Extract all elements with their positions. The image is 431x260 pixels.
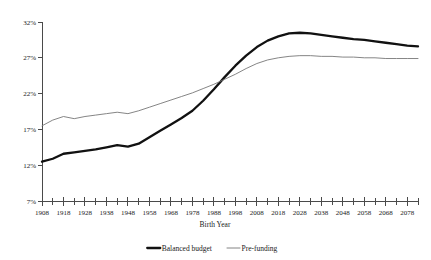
chart-legend: Balanced budgetPre-funding: [147, 244, 277, 253]
x-tick-label: 1968: [164, 209, 179, 217]
legend-label: Pre-funding: [242, 244, 278, 253]
x-tick-label: 1908: [35, 209, 50, 217]
x-axis-ticks: 1908191819281938194819581968197819881998…: [35, 197, 418, 218]
y-tick-label: 27%: [23, 54, 36, 62]
x-tick-label: 1998: [228, 209, 243, 217]
y-tick-label: 17%: [23, 126, 36, 134]
x-tick-label: 1928: [78, 209, 93, 217]
data-series: [42, 33, 418, 162]
series-line-balanced-budget: [42, 33, 418, 162]
y-tick-label: 32%: [23, 19, 36, 27]
x-tick-label: 2028: [293, 209, 308, 217]
x-tick-label: 1978: [185, 209, 200, 217]
series-line-pre-funding: [42, 56, 418, 126]
x-tick-label: 2058: [357, 209, 372, 217]
x-tick-label: 2038: [314, 209, 329, 217]
y-tick-label: 7%: [27, 198, 37, 206]
axis-lines: [42, 22, 418, 201]
y-tick-label: 22%: [23, 90, 36, 98]
y-tick-label: 12%: [23, 162, 36, 170]
x-tick-label: 2008: [250, 209, 265, 217]
x-tick-label: 1958: [142, 209, 157, 217]
x-tick-label: 1988: [207, 209, 222, 217]
x-tick-label: 2048: [336, 209, 351, 217]
legend-label: Balanced budget: [162, 244, 213, 253]
x-tick-label: 2078: [400, 209, 415, 217]
chart-container: 32%27%22%17%12%7% 1908191819281938194819…: [0, 0, 431, 260]
x-tick-label: 1938: [99, 209, 114, 217]
x-tick-label: 1948: [121, 209, 136, 217]
x-tick-label: 2068: [379, 209, 394, 217]
x-tick-label: 1918: [56, 209, 71, 217]
line-chart: 32%27%22%17%12%7% 1908191819281938194819…: [0, 0, 431, 260]
y-axis-ticks: 32%27%22%17%12%7%: [23, 19, 42, 206]
x-axis-title: Birth Year: [200, 220, 231, 229]
x-tick-label: 2018: [271, 209, 286, 217]
